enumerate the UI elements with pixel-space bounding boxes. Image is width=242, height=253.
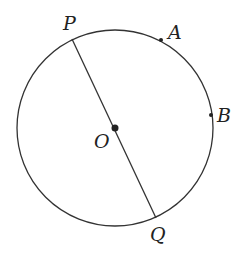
circle-diagram: P A B Q O [0,0,242,253]
label-q: Q [150,223,166,245]
point-a [159,38,163,42]
label-o: O [94,130,110,152]
center-point-o [112,125,119,132]
point-b [209,113,213,117]
label-p: P [62,12,77,34]
label-a: A [166,21,182,43]
label-b: B [216,104,231,126]
